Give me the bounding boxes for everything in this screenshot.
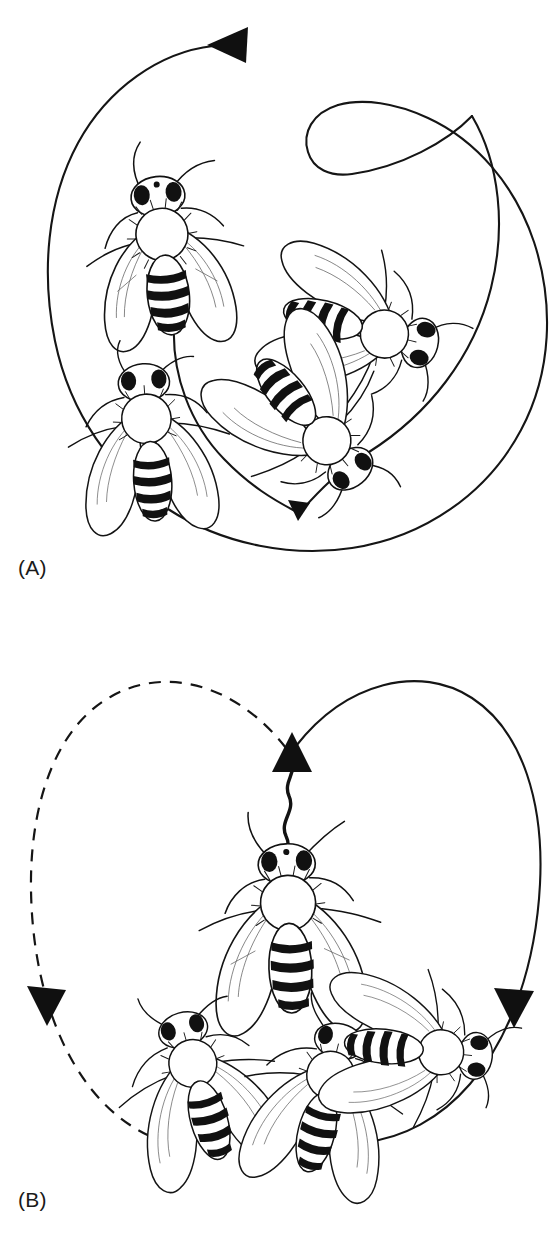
panel-b-label: (B) (18, 1189, 47, 1210)
bee-lower-left (61, 334, 236, 538)
panel-b-waggle-dance: (B) (0, 628, 559, 1256)
panel-b-canvas (0, 628, 559, 1256)
round-dance-top-arrowhead (207, 27, 248, 63)
bee-leg-fore-left (438, 989, 469, 1035)
waggle-center-arrowhead (272, 732, 312, 772)
panel-a-round-dance: (A) (0, 0, 559, 628)
panel-a-label: (A) (18, 557, 47, 578)
round-dance-inner-arrowhead (288, 500, 310, 521)
panel-a-canvas (0, 0, 559, 628)
round-dance-inner-curl (306, 105, 472, 175)
figure-root: (A) (0, 0, 559, 1256)
waggle-left-arrowhead (27, 986, 66, 1026)
bee-upper-left (75, 132, 254, 354)
waggle-right-arrowhead (494, 988, 534, 1028)
bee-leg-fore-right (310, 876, 354, 902)
